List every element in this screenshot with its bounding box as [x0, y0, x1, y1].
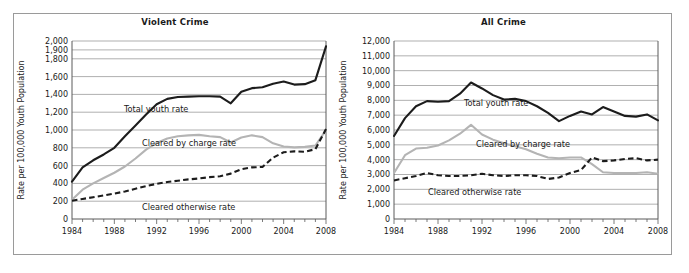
y-tick-label: 1,000 — [45, 126, 68, 135]
x-tick-label: 1996 — [189, 227, 209, 236]
y-tick-label: 11,000 — [362, 52, 390, 61]
x-tick-label: 1992 — [146, 227, 166, 236]
y-tick-label: 1,800 — [45, 55, 68, 64]
series-line-cleared-by-charge-rate — [394, 125, 658, 174]
x-tick-label: 2004 — [273, 227, 293, 236]
y-tick-label: 8,000 — [367, 96, 390, 105]
series-annotation-cleared-otherwise-rate: Cleared otherwise rate — [142, 202, 235, 212]
y-tick-label: 1,400 — [45, 90, 68, 99]
y-tick-label: 0 — [63, 215, 68, 224]
series-line-cleared-otherwise-rate — [394, 157, 658, 180]
y-tick-label: 0 — [385, 215, 390, 224]
y-tick-label: 1,200 — [45, 108, 68, 117]
y-tick-label: 4,000 — [367, 156, 390, 165]
series-annotation-cleared-otherwise-rate: Cleared otherwise rate — [428, 187, 521, 197]
y-tick-label: 400 — [53, 179, 68, 188]
series-line-total-youth-rate — [72, 46, 326, 181]
series-annotation-total-youth-rate: Total youth rate — [463, 98, 528, 108]
y-tick-label: 200 — [53, 197, 68, 206]
y-tick-label: 12,000 — [362, 37, 390, 46]
x-tick-label: 1984 — [62, 227, 82, 236]
x-tick-label: 2000 — [560, 227, 580, 236]
series-annotation-cleared-by-charge-rate: Cleared by charge rate — [142, 138, 236, 148]
x-tick-label: 1984 — [384, 227, 404, 236]
x-tick-label: 1988 — [104, 227, 124, 236]
chart-all-crime: Rate per 100,000 Youth Population01,0002… — [336, 14, 671, 256]
x-tick-label: 2000 — [231, 227, 251, 236]
series-annotation-total-youth-rate: Total youth rate — [123, 104, 188, 114]
x-tick-label: 1996 — [516, 227, 536, 236]
y-tick-label: 10,000 — [362, 67, 390, 76]
x-tick-label: 2008 — [648, 227, 668, 236]
series-line-total-youth-rate — [394, 83, 658, 136]
y-tick-label: 6,000 — [367, 126, 390, 135]
chart-violent-crime: Rate per 100,000 Youth Population0200400… — [14, 14, 336, 256]
chart-panel-all-crime: All Crime Rate per 100,000 Youth Populat… — [336, 14, 671, 254]
y-tick-label: 800 — [53, 144, 68, 153]
figure-frame: Violent Crime Rate per 100,000 Youth Pop… — [13, 13, 672, 255]
y-tick-label: 5,000 — [367, 141, 390, 150]
x-tick-label: 1992 — [472, 227, 492, 236]
chart-panel-violent-crime: Violent Crime Rate per 100,000 Youth Pop… — [14, 14, 336, 254]
y-tick-label: 7,000 — [367, 111, 390, 120]
y-tick-label: 2,000 — [45, 37, 68, 46]
y-axis-title: Rate per 100,000 Youth Population — [339, 61, 348, 200]
y-tick-label: 2,000 — [367, 185, 390, 194]
y-tick-label: 9,000 — [367, 81, 390, 90]
series-annotation-cleared-by-charge-rate: Cleared by charge rate — [476, 139, 570, 149]
panel-row: Violent Crime Rate per 100,000 Youth Pop… — [14, 14, 671, 254]
y-tick-label: 600 — [53, 162, 68, 171]
y-tick-label: 1,600 — [45, 73, 68, 82]
y-axis-title: Rate per 100,000 Youth Population — [17, 61, 26, 200]
x-tick-label: 2004 — [604, 227, 624, 236]
y-tick-label: 1,900 — [45, 46, 68, 55]
x-tick-label: 1988 — [428, 227, 448, 236]
y-tick-label: 1,000 — [367, 200, 390, 209]
y-tick-label: 3,000 — [367, 170, 390, 179]
x-tick-label: 2008 — [316, 227, 336, 236]
